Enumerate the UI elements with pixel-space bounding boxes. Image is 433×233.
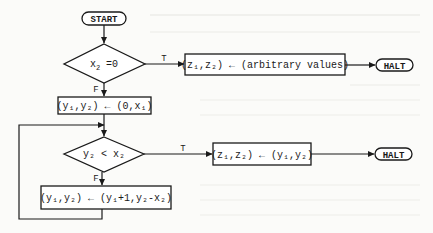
halt-terminal-2: HALT	[375, 148, 412, 161]
assign-label: (z₁,z₂) ← (y₁,y₂)	[211, 150, 313, 161]
process-update-y: (y₁,y₂) ← (y₁+1,y₂-x₂)	[40, 186, 172, 209]
edge-label-false-2: F	[93, 174, 98, 184]
decision-y2-less-than-x2: y₂ < x₂	[64, 137, 144, 172]
update-label: (y₁,y₂) ← (y₁+1,y₂-x₂)	[40, 193, 172, 204]
init-label: (y₁,y₂) ← (0,x₁)	[56, 101, 152, 112]
process-assign-z: (z₁,z₂) ← (y₁,y₂)	[211, 143, 313, 165]
background-bleed	[150, 15, 420, 215]
process-arbitrary-values: (z₁,z₂) ← (arbitrary values)	[181, 54, 349, 75]
halt-1-label: HALT	[384, 62, 406, 72]
flowchart-diagram: START x2 =0 T (z₁,z₂) ← (arbitrary value…	[0, 0, 433, 233]
edge-label-true-1: T	[161, 54, 167, 64]
process-init-y: (y₁,y₂) ← (0,x₁)	[56, 97, 152, 114]
arbitrary-label: (z₁,z₂) ← (arbitrary values)	[181, 60, 349, 71]
decision-2-label: y₂ < x₂	[83, 149, 125, 160]
edge-label-false-1: F	[93, 85, 98, 95]
decision-x2-equals-zero: x2 =0	[64, 44, 145, 83]
start-label: START	[90, 15, 118, 25]
edge-label-true-2: T	[180, 144, 186, 154]
halt-2-label: HALT	[383, 151, 405, 161]
start-terminal: START	[82, 12, 126, 25]
halt-terminal-1: HALT	[376, 59, 413, 72]
decision-1-rest: =0	[100, 59, 118, 70]
